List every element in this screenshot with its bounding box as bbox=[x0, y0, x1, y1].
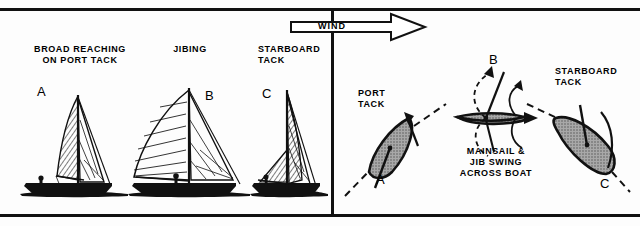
boat-b-plan-view bbox=[457, 66, 538, 156]
panel-divider bbox=[331, 11, 334, 215]
bottom-rule bbox=[0, 214, 640, 217]
sailboat-b-side-view bbox=[128, 88, 250, 197]
boat-label-b-side: B bbox=[205, 88, 214, 103]
caption-port-tack: PORT TACK bbox=[358, 88, 408, 110]
boat-label-a-plan: A bbox=[376, 172, 385, 187]
caption-broad-reaching-port-tack: BROAD REACHING ON PORT TACK bbox=[20, 44, 140, 66]
diagram-artwork bbox=[0, 0, 640, 226]
sailing-jibe-diagram: BROAD REACHING ON PORT TACK JIBING STARB… bbox=[0, 0, 640, 226]
sailboat-c-side-view bbox=[250, 90, 328, 197]
caption-starboard-tack-left-panel: STARBOARD TACK bbox=[258, 44, 332, 66]
boat-label-b-plan: B bbox=[489, 52, 498, 67]
boat-label-a-side: A bbox=[37, 84, 46, 99]
boat-label-c-side: C bbox=[262, 86, 271, 101]
top-rule bbox=[0, 8, 640, 11]
sailboat-a-side-view bbox=[20, 95, 128, 197]
caption-mainsail-jib-swing-across-boat: MAINSAIL & JIB SWING ACROSS BOAT bbox=[441, 146, 551, 179]
boat-label-c-plan: C bbox=[600, 176, 609, 191]
boat-c-plan-view bbox=[554, 105, 615, 174]
caption-starboard-tack-right-panel: STARBOARD TACK bbox=[555, 66, 635, 88]
caption-jibing: JIBING bbox=[145, 44, 235, 55]
wind-arrow-label: WIND bbox=[310, 21, 354, 32]
